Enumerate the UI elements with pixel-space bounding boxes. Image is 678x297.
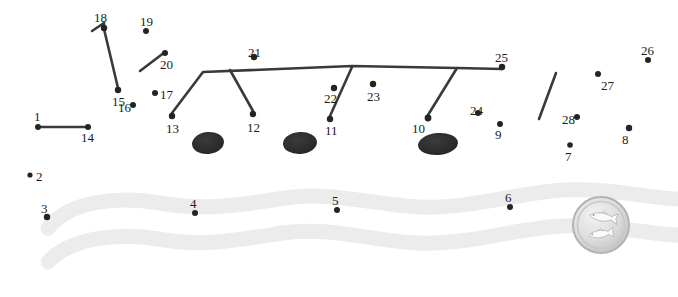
dark-blob-left: [191, 130, 225, 155]
branch-to-10: [428, 68, 457, 115]
dot-15[interactable]: [115, 87, 121, 93]
dot-label-16: 16: [118, 101, 131, 114]
dot-label-12: 12: [247, 121, 260, 134]
dot-1[interactable]: [35, 124, 41, 130]
dot-label-21: 21: [248, 46, 261, 59]
puzzle-artwork: [0, 0, 678, 297]
fish-coin-medallion: [573, 197, 629, 253]
dark-blob-middle: [282, 131, 317, 155]
dot-8[interactable]: [626, 125, 632, 131]
branch-to-12: [230, 70, 253, 111]
dot-23[interactable]: [370, 81, 376, 87]
dot-label-5: 5: [332, 194, 339, 207]
segment-18-to-15: [92, 23, 118, 88]
dot-label-14: 14: [81, 131, 94, 144]
dot-7[interactable]: [567, 142, 573, 148]
dot-label-2: 2: [36, 170, 43, 183]
dot-label-3: 3: [41, 202, 48, 215]
dot-label-23: 23: [367, 90, 380, 103]
dot-label-1: 1: [34, 110, 41, 123]
dot-label-13: 13: [166, 122, 179, 135]
dot-label-20: 20: [160, 58, 173, 71]
dot-label-10: 10: [412, 122, 425, 135]
medallion-group: [573, 197, 629, 253]
dot-12[interactable]: [250, 111, 256, 117]
dot-label-6: 6: [505, 191, 512, 204]
dot-11[interactable]: [327, 116, 333, 122]
dot-label-8: 8: [622, 133, 629, 146]
dot-2[interactable]: [27, 172, 32, 177]
segment-free-diagonal: [539, 73, 556, 119]
dot-label-9: 9: [495, 128, 502, 141]
dot-label-27: 27: [601, 79, 614, 92]
dot-label-11: 11: [325, 124, 338, 137]
puzzle-canvas: 1234567891011121314151617181920212223242…: [0, 0, 678, 297]
dot-17[interactable]: [152, 90, 158, 96]
dot-label-25: 25: [495, 51, 508, 64]
dot-label-28: 28: [562, 113, 575, 126]
dot-label-26: 26: [641, 44, 654, 57]
dot-label-18: 18: [94, 11, 107, 24]
dot-20[interactable]: [162, 50, 168, 56]
dot-label-22: 22: [324, 92, 337, 105]
dot-18[interactable]: [101, 25, 107, 31]
dot-27[interactable]: [595, 71, 601, 77]
dot-13[interactable]: [169, 113, 175, 119]
dot-label-7: 7: [565, 150, 572, 163]
dot-label-17: 17: [160, 88, 173, 101]
dot-label-24: 24: [470, 104, 483, 117]
dot-10[interactable]: [425, 115, 432, 122]
dot-label-19: 19: [140, 15, 153, 28]
dot-label-4: 4: [190, 197, 197, 210]
